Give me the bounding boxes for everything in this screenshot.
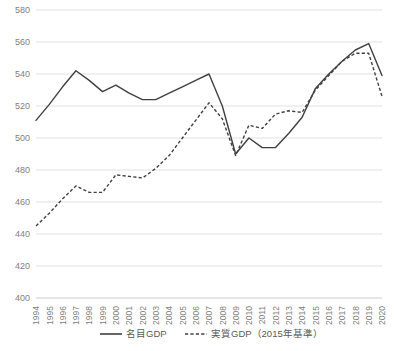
x-axis-tick-label: 2018	[351, 306, 361, 325]
x-axis-tick-label: 2010	[244, 306, 254, 325]
y-axis-tick-labels: 400420440460480500520540560580	[15, 5, 30, 303]
y-axis-tick-label: 540	[15, 69, 30, 79]
x-axis-tick-label: 2015	[311, 306, 321, 325]
chart-canvas: 400420440460480500520540560580 199419951…	[0, 0, 395, 351]
x-axis-tick-label: 2011	[257, 306, 267, 325]
chart-legend: 名目GDP実質GDP（2015年基準）	[100, 328, 323, 339]
legend-label: 名目GDP	[126, 328, 167, 339]
series-line-nominal-gdp	[36, 44, 382, 154]
x-axis-tick-label: 2014	[297, 306, 307, 325]
x-axis-tick-label: 2017	[337, 306, 347, 325]
x-axis-tick-label: 2020	[377, 306, 387, 325]
x-axis-tick-label: 2016	[324, 306, 334, 325]
x-axis-tick-label: 2007	[204, 306, 214, 325]
y-axis-tick-label: 460	[15, 197, 30, 207]
x-axis-tick-label: 2012	[271, 306, 281, 325]
data-series	[36, 44, 382, 226]
x-axis-tick-label: 2001	[124, 306, 134, 325]
x-axis-tick-label: 2006	[191, 306, 201, 325]
y-axis-tick-label: 520	[15, 101, 30, 111]
x-axis-tick-label: 1997	[71, 306, 81, 325]
x-axis-tick-label: 2019	[364, 306, 374, 325]
x-axis-tick-label: 1998	[84, 306, 94, 325]
x-axis-tick-label: 1996	[58, 306, 68, 325]
y-axis-tick-label: 560	[15, 37, 30, 47]
y-axis-tick-label: 500	[15, 133, 30, 143]
y-axis-tick-label: 480	[15, 165, 30, 175]
x-axis-tick-label: 2005	[178, 306, 188, 325]
gdp-line-chart: 400420440460480500520540560580 199419951…	[0, 0, 395, 351]
y-axis-tick-label: 400	[15, 293, 30, 303]
x-axis-tick-label: 1999	[98, 306, 108, 325]
x-axis-tick-label: 2004	[164, 306, 174, 325]
x-axis-tick-label: 2013	[284, 306, 294, 325]
x-axis-tick-label: 2003	[151, 306, 161, 325]
x-axis-tick-label: 2008	[218, 306, 228, 325]
x-axis-tick-labels: 1994199519961997199819992000200120022003…	[31, 306, 387, 325]
y-axis-tick-label: 580	[15, 5, 30, 15]
x-axis-tick-label: 1994	[31, 306, 41, 325]
x-axis-tick-label: 2002	[138, 306, 148, 325]
y-axis-tick-label: 420	[15, 261, 30, 271]
x-axis-tick-label: 2000	[111, 306, 121, 325]
x-axis-tick-label: 1995	[45, 306, 55, 325]
x-axis-tick-label: 2009	[231, 306, 241, 325]
y-axis-tick-label: 440	[15, 229, 30, 239]
gridlines	[36, 10, 382, 298]
legend-label: 実質GDP（2015年基準）	[211, 328, 323, 339]
